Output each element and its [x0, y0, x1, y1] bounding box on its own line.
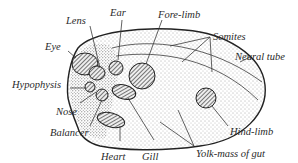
label-fore-limb: Fore-limb — [157, 9, 200, 20]
label-somites: Somites — [213, 31, 246, 42]
fore-limb-shape — [129, 63, 155, 89]
label-balancer: Balancer — [50, 127, 89, 138]
label-hypophysis: Hypophysis — [11, 79, 61, 90]
label-yolk-mass: Yolk-mass of gut — [196, 148, 266, 159]
label-eye: Eye — [44, 41, 61, 52]
hypophysis-shape — [85, 82, 95, 92]
label-hind-limb: Hind-limb — [229, 126, 273, 137]
label-ear: Ear — [109, 7, 127, 18]
embryo-diagram: Lens Ear Fore-limb Somites Neural tube E… — [0, 0, 298, 163]
hind-limb-shape — [196, 88, 216, 108]
label-nose: Nose — [55, 106, 77, 117]
label-lens: Lens — [65, 15, 86, 26]
ear-shape — [109, 61, 123, 75]
nose-shape — [96, 89, 108, 101]
label-heart: Heart — [100, 151, 127, 162]
lens-shape — [89, 66, 105, 80]
label-gill: Gill — [142, 151, 158, 162]
label-neural-tube: Neural tube — [234, 51, 285, 62]
